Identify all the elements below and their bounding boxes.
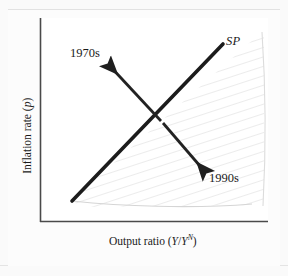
annotation-label-1970s: 1970s — [70, 47, 100, 60]
y-axis-label-var: p — [21, 102, 33, 108]
y-axis-label: Inflation rate (p) — [22, 81, 34, 191]
x-axis-label: Output ratio (Y/YN) — [109, 234, 197, 247]
annotation-label-1990s: 1990s — [209, 172, 239, 185]
y-axis-label-prefix: Inflation rate ( — [21, 107, 33, 173]
x-axis-label-prefix: Output ratio ( — [109, 235, 172, 247]
x-axis-label-suffix: ) — [193, 235, 197, 247]
y-axis-label-suffix: ) — [21, 98, 33, 102]
figure-root: SP 1970s 1990s Output ratio (Y/YN) Infla… — [0, 0, 288, 276]
sp-curve-label: SP — [226, 35, 240, 48]
